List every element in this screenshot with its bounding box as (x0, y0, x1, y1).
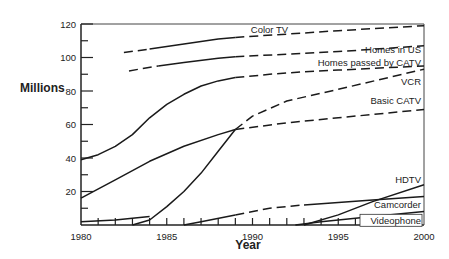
solid-segment (81, 130, 235, 199)
solid-segment (81, 78, 235, 160)
solid-segment (150, 37, 236, 49)
series-lines (81, 26, 424, 225)
chart-container: 2040608010012019801985199019952000 Color… (0, 0, 449, 259)
y-tick-label: 100 (60, 52, 76, 63)
series-labels: Color TVHomes in USHomes passed by CATVV… (251, 24, 422, 226)
y-tick-label: 60 (65, 119, 76, 130)
series-label: Videophone (370, 215, 421, 226)
y-tick-label: 20 (65, 186, 76, 197)
y-axis-label: Millions (20, 81, 65, 95)
series-label: VCR (401, 76, 421, 87)
series-basic-catv (81, 109, 424, 198)
solid-segment (184, 215, 235, 225)
series-label: Color TV (251, 24, 289, 35)
x-axis-label: Year (235, 238, 261, 252)
series-label: Homes passed by CATV (318, 57, 422, 68)
series-label: HDTV (395, 174, 422, 185)
solid-segment (132, 130, 235, 226)
dashed-segment (124, 49, 150, 52)
series-label: Basic CATV (370, 95, 421, 106)
dashed-segment (235, 109, 424, 129)
y-tick-label: 40 (65, 153, 76, 164)
y-tick-label: 120 (60, 19, 76, 30)
solid-segment (158, 57, 235, 66)
series-label: Homes in US (365, 44, 421, 55)
x-tick-label: 2000 (413, 231, 434, 242)
line-chart: 2040608010012019801985199019952000 Color… (0, 0, 449, 259)
series-label: Camcorder (374, 199, 421, 210)
x-tick-label: 1985 (156, 231, 177, 242)
x-tick-label: 1980 (70, 231, 91, 242)
series-homes-passed-by-catv (81, 66, 424, 160)
y-tick-label: 80 (65, 86, 76, 97)
x-tick-label: 1995 (328, 231, 349, 242)
dashed-segment (129, 66, 158, 71)
dashed-segment (235, 205, 304, 215)
